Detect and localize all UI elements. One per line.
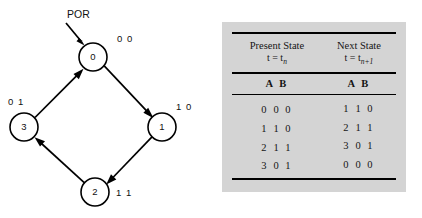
present-state-cell: 00 0 bbox=[232, 99, 322, 118]
present-state-header: Present State t = tn bbox=[232, 34, 322, 72]
present-state-cell: 11 0 bbox=[232, 118, 322, 137]
por-label: POR bbox=[67, 8, 90, 20]
present-state-cell: 21 1 bbox=[232, 137, 322, 156]
table-row: 00 0 11 0 bbox=[232, 99, 396, 118]
state-transition-diagram: 0 0 0 1 1 0 2 1 1 3 0 1 POR bbox=[0, 0, 211, 218]
present-state-time-prefix: t = t bbox=[267, 52, 283, 63]
por-reset-arrow bbox=[66, 23, 85, 46]
present-state-time-subscript: n bbox=[283, 57, 287, 66]
diagram-canvas: 0 0 0 1 1 0 2 1 1 3 0 1 POR bbox=[0, 0, 211, 218]
table-row: 21 1 30 1 bbox=[232, 137, 396, 156]
next-state-number: 3 bbox=[336, 139, 348, 152]
present-state-number: 0 bbox=[254, 103, 266, 116]
state-node-3-id: 3 bbox=[21, 121, 26, 132]
present-state-number: 3 bbox=[254, 159, 266, 172]
state-node-3[interactable]: 3 bbox=[10, 113, 38, 141]
table-row: 30 1 00 0 bbox=[232, 155, 396, 174]
next-state-cell: 30 1 bbox=[322, 137, 396, 156]
next-state-bits: 1 1 bbox=[348, 121, 381, 134]
state-node-2[interactable]: 2 bbox=[81, 178, 109, 206]
edge-0-to-1 bbox=[104, 66, 154, 119]
edge-1-to-2 bbox=[106, 137, 152, 185]
next-state-cell: 00 0 bbox=[322, 155, 396, 174]
next-state-header: Next State t = tn+1 bbox=[322, 34, 396, 72]
present-state-bits: 1 1 bbox=[266, 141, 299, 154]
state-transition-table: Present State t = tn Next State t = tn+1… bbox=[232, 32, 396, 180]
next-state-bits: 0 0 bbox=[348, 158, 381, 171]
present-state-number: 2 bbox=[254, 141, 266, 154]
next-state-number: 0 bbox=[336, 158, 348, 171]
table-header-row-ab: A B A B bbox=[232, 74, 396, 93]
state-node-1-id: 1 bbox=[159, 121, 164, 132]
table-rule-bottom bbox=[232, 178, 396, 180]
present-state-bits: 0 1 bbox=[266, 159, 299, 172]
next-state-time-prefix: t = t bbox=[345, 52, 361, 63]
next-state-bits: 0 1 bbox=[348, 139, 381, 152]
state-node-2-output-label: 1 1 bbox=[116, 187, 133, 198]
state-node-3-output-label: 0 1 bbox=[8, 96, 25, 107]
next-state-cell: 21 1 bbox=[322, 118, 396, 137]
edge-3-to-0 bbox=[35, 69, 84, 118]
present-state-cell: 30 1 bbox=[232, 155, 322, 174]
state-node-1[interactable]: 1 bbox=[148, 113, 176, 141]
present-state-bits: 0 0 bbox=[266, 103, 299, 116]
next-state-bits: 1 0 bbox=[348, 102, 381, 115]
present-state-title: Present State bbox=[232, 39, 322, 52]
state-table-panel: Present State t = tn Next State t = tn+1… bbox=[222, 22, 406, 192]
table-row: 11 0 21 1 bbox=[232, 118, 396, 137]
state-node-1-output-label: 1 0 bbox=[176, 101, 193, 112]
state-node-0-id: 0 bbox=[90, 51, 95, 62]
present-state-number: 1 bbox=[254, 122, 266, 135]
next-state-time: t = tn+1 bbox=[322, 52, 396, 66]
edge-2-to-3 bbox=[35, 137, 85, 183]
horizontal-rule bbox=[232, 178, 396, 180]
state-node-0[interactable]: 0 bbox=[79, 43, 107, 71]
table-header-row-titles: Present State t = tn Next State t = tn+1 bbox=[232, 34, 396, 72]
state-node-2-id: 2 bbox=[92, 186, 97, 197]
present-state-time: t = tn bbox=[232, 52, 322, 66]
next-state-cell: 11 0 bbox=[322, 99, 396, 118]
next-state-number: 2 bbox=[336, 121, 348, 134]
present-state-bits: 1 0 bbox=[266, 122, 299, 135]
present-ab-header: A B bbox=[232, 74, 322, 93]
next-state-title: Next State bbox=[322, 39, 396, 52]
next-state-number: 1 bbox=[336, 102, 348, 115]
next-ab-header: A B bbox=[322, 74, 396, 93]
next-state-time-subscript: n+1 bbox=[361, 57, 374, 66]
state-node-0-output-label: 0 0 bbox=[117, 33, 134, 44]
